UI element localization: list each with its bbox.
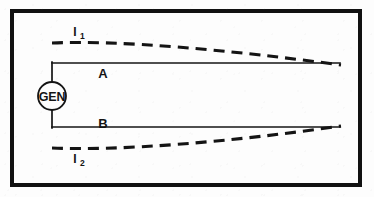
current-i1-label: I <box>73 25 76 39</box>
current-i1-path <box>52 42 341 65</box>
conductor-b-label: B <box>98 116 107 131</box>
current-i2-path <box>52 126 341 149</box>
current-i2-label-group: I 2 <box>73 152 85 168</box>
circuit-diagram: GEN A B I 1 I 2 <box>0 0 374 197</box>
conductor-a-label: A <box>98 66 108 81</box>
current-i2-label: I <box>73 152 76 166</box>
current-i1-subscript: 1 <box>80 31 85 41</box>
current-i2-subscript: 2 <box>80 158 85 168</box>
current-i1-label-group: I 1 <box>73 25 85 41</box>
figure-container: GEN A B I 1 I 2 <box>0 0 374 197</box>
generator-label: GEN <box>39 90 66 104</box>
